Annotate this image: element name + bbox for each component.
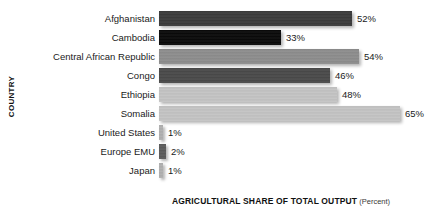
bar[interactable] <box>159 30 281 45</box>
bar-row: Ethiopia48% <box>0 86 448 105</box>
bar-value-label: 33% <box>286 31 305 44</box>
bar-row: Japan1% <box>0 162 448 181</box>
bar[interactable] <box>159 49 359 64</box>
bar-track <box>159 49 359 64</box>
bar[interactable] <box>159 68 330 83</box>
x-axis-title-text: AGRICULTURAL SHARE OF TOTAL OUTPUT <box>172 196 357 206</box>
bar-row: Central African Republic54% <box>0 48 448 67</box>
bar-row: Cambodia33% <box>0 29 448 48</box>
plot-area: Afghanistan52%Cambodia33%Central African… <box>0 10 448 181</box>
bar-value-label: 52% <box>357 12 376 25</box>
bar-track <box>159 163 163 178</box>
bar-track <box>159 144 166 159</box>
bar-row: Congo46% <box>0 67 448 86</box>
bar-track <box>159 106 400 121</box>
bar-value-label: 1% <box>168 126 182 139</box>
bar[interactable] <box>159 144 166 159</box>
category-label: Cambodia <box>112 31 155 44</box>
x-axis-title: AGRICULTURAL SHARE OF TOTAL OUTPUT (Perc… <box>172 196 390 206</box>
bar-track <box>159 68 330 83</box>
bar-track <box>159 125 163 140</box>
bar-row: Somalia65% <box>0 105 448 124</box>
bar-value-label: 54% <box>364 50 383 63</box>
category-label: United States <box>98 126 155 139</box>
bar[interactable] <box>159 163 163 178</box>
bar[interactable] <box>159 87 337 102</box>
x-axis-unit-text: (Percent) <box>357 197 390 206</box>
bar-row: United States1% <box>0 124 448 143</box>
bar-chart: COUNTRY Afghanistan52%Cambodia33%Central… <box>0 0 448 221</box>
bar[interactable] <box>159 106 400 121</box>
bar-value-label: 65% <box>405 107 424 120</box>
bar-track <box>159 30 281 45</box>
bar-track <box>159 87 337 102</box>
bar-value-label: 2% <box>171 145 185 158</box>
category-label: Congo <box>127 69 155 82</box>
bar[interactable] <box>159 125 163 140</box>
bar[interactable] <box>159 11 352 26</box>
bar-track <box>159 11 352 26</box>
bar-value-label: 48% <box>342 88 361 101</box>
category-label: Somalia <box>121 107 155 120</box>
category-label: Afghanistan <box>105 12 155 25</box>
bar-row: Europe EMU2% <box>0 143 448 162</box>
category-label: Ethiopia <box>121 88 155 101</box>
category-label: Europe EMU <box>101 145 155 158</box>
category-label: Japan <box>129 164 155 177</box>
bar-value-label: 46% <box>335 69 354 82</box>
category-label: Central African Republic <box>53 50 155 63</box>
bar-row: Afghanistan52% <box>0 10 448 29</box>
bar-value-label: 1% <box>168 164 182 177</box>
